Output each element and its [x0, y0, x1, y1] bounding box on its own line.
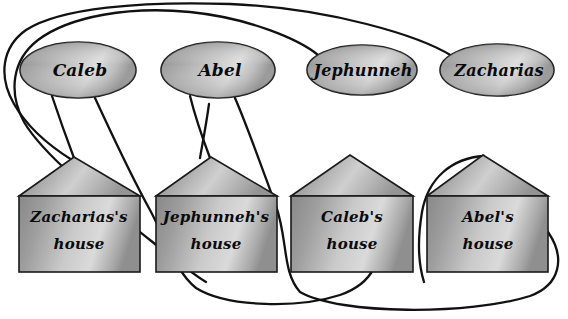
- house-roof-caleb: [291, 155, 413, 196]
- person-label-caleb: Caleb: [53, 60, 108, 80]
- person-label-abel: Abel: [196, 60, 241, 80]
- house-label-jephunneh-line1: Jephunneh's: [160, 208, 270, 226]
- house-abel[interactable]: Abel's house: [427, 155, 548, 272]
- person-node-jephunneh[interactable]: Jephunneh: [307, 45, 417, 95]
- person-label-jephunneh: Jephunneh: [310, 61, 412, 80]
- house-label-zacharias-line1: Zacharias's: [29, 208, 128, 226]
- person-node-caleb[interactable]: Caleb: [20, 42, 136, 98]
- house-label-abel-line1: Abel's: [460, 208, 514, 226]
- house-label-abel-line2: house: [463, 235, 514, 253]
- house-label-jephunneh-line2: house: [191, 235, 242, 253]
- person-node-zacharias[interactable]: Zacharias: [440, 44, 554, 96]
- people-layer: Caleb Abel Jephunneh Zacharias: [20, 42, 554, 98]
- connector-abel-left-stub: [190, 96, 210, 158]
- house-caleb[interactable]: Caleb's house: [291, 155, 413, 272]
- house-roof-zacharias: [19, 157, 140, 196]
- diagram-canvas: Zacharias's house Jephunneh's house Cale…: [0, 0, 568, 319]
- houses-layer: Zacharias's house Jephunneh's house Cale…: [19, 155, 548, 272]
- house-label-caleb-line2: house: [327, 235, 378, 253]
- mapping-diagram: Zacharias's house Jephunneh's house Cale…: [0, 0, 568, 319]
- house-roof-jephunneh: [156, 157, 277, 196]
- house-roof-abel: [427, 155, 548, 196]
- house-label-zacharias-line2: house: [54, 235, 105, 253]
- person-label-zacharias: Zacharias: [453, 61, 543, 80]
- house-jephunneh[interactable]: Jephunneh's house: [156, 157, 277, 272]
- house-label-caleb-line1: Caleb's: [321, 208, 383, 226]
- house-zacharias[interactable]: Zacharias's house: [19, 157, 140, 272]
- person-node-abel[interactable]: Abel: [161, 42, 275, 98]
